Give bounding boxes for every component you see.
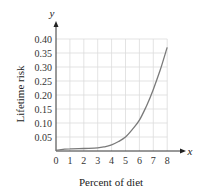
y-tick-label: 0.10 — [35, 118, 53, 129]
x-tick-label: 2 — [81, 155, 86, 166]
x-tick-label: 4 — [109, 155, 114, 166]
y-axis-label: Lifetime risk — [14, 65, 26, 123]
x-axis-arrow-icon — [180, 149, 186, 154]
y-axis-variable: y — [49, 7, 55, 19]
axes — [54, 21, 187, 154]
x-axis-variable: x — [187, 145, 193, 157]
y-tick-label: 0.05 — [35, 132, 53, 143]
y-tick-label: 0.40 — [35, 34, 53, 45]
x-tick-labels: 012345678 — [54, 155, 170, 166]
y-tick-label: 0.20 — [35, 90, 53, 101]
line-chart: 0.050.100.150.200.250.300.350.40 0123456… — [0, 0, 201, 194]
x-tick-label: 3 — [95, 155, 100, 166]
x-tick-label: 1 — [67, 155, 72, 166]
y-tick-label: 0.25 — [35, 76, 53, 87]
y-tick-labels: 0.050.100.150.200.250.300.350.40 — [35, 34, 53, 143]
x-axis-label: Percent of diet — [79, 176, 143, 188]
y-tick-label: 0.35 — [35, 48, 53, 59]
x-tick-label: 8 — [165, 155, 170, 166]
x-tick-label: 6 — [137, 155, 142, 166]
x-tick-label: 7 — [151, 155, 156, 166]
x-tick-label: 0 — [54, 155, 59, 166]
x-tick-label: 5 — [123, 155, 128, 166]
y-tick-label: 0.30 — [35, 62, 53, 73]
y-tick-label: 0.15 — [35, 104, 53, 115]
y-axis-arrow-icon — [54, 21, 59, 27]
